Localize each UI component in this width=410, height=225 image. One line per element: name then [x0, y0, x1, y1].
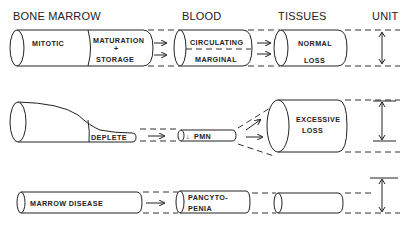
marrow-disease-cylinder: MARROW DISEASE — [17, 192, 142, 213]
label-maturation: MATURATION — [93, 36, 144, 45]
down-arrow-icon: ↓ — [186, 132, 190, 141]
header-tissues: TISSUES — [278, 10, 326, 22]
tissues-cylinder: NORMAL LOSS — [274, 30, 347, 66]
blood-cylinder: CIRCULATING MARGINAL — [174, 30, 252, 66]
blood-pmn-cylinder: ↓ PMN — [178, 130, 236, 141]
row-normal: MITOTIC MATURATION + STORAGE CIRCULATING… — [10, 30, 400, 66]
row-marrow-disease: MARROW DISEASE PANCYTO- PENIA — [17, 178, 400, 213]
header-unit: UNIT — [372, 10, 399, 22]
label-marrow-disease: MARROW DISEASE — [30, 199, 103, 208]
blood-pancytopenia-cylinder: PANCYTO- PENIA — [176, 191, 250, 213]
row-excessive-loss: DEPLETE ↓ PMN EXCESSIVE LOSS — [10, 100, 400, 156]
label-loss: LOSS — [304, 56, 325, 65]
label-pmn: PMN — [194, 132, 211, 141]
label-normal: NORMAL — [298, 39, 332, 48]
tissues-empty-cylinder — [274, 193, 343, 213]
unit-double-arrow-icon — [370, 178, 398, 212]
label-mitotic: MITOTIC — [32, 39, 64, 48]
label-excessive-loss: LOSS — [302, 126, 323, 135]
marrow-cylinder: MITOTIC MATURATION + STORAGE — [10, 30, 153, 66]
unit-double-arrow-icon — [373, 101, 396, 141]
granulocyte-kinetics-diagram: BONE MARROW BLOOD TISSUES UNIT MITOTIC M… — [0, 0, 410, 225]
label-storage: STORAGE — [96, 55, 134, 64]
tissues-excessive-cylinder: EXCESSIVE LOSS — [267, 100, 347, 152]
label-pancyto: PANCYTO- — [188, 193, 228, 202]
label-marginal: MARGINAL — [195, 55, 237, 64]
label-penia: PENIA — [188, 204, 212, 213]
header-blood: BLOOD — [182, 10, 222, 22]
label-excessive: EXCESSIVE — [296, 115, 340, 124]
label-plus: + — [114, 44, 119, 53]
label-circulating: CIRCULATING — [190, 38, 243, 47]
unit-double-arrow-icon — [379, 32, 385, 64]
header-bone-marrow: BONE MARROW — [13, 10, 101, 22]
marrow-depleted-cylinder: DEPLETE — [10, 102, 136, 142]
label-deplete: DEPLETE — [91, 133, 127, 142]
